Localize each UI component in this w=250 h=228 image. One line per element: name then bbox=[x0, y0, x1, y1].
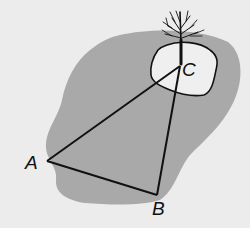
vertex-label-a: A bbox=[25, 153, 38, 172]
vertex-label-c: C bbox=[182, 60, 196, 79]
vertex-label-b: B bbox=[152, 199, 165, 218]
diagram: A B C bbox=[0, 0, 250, 228]
diagram-canvas bbox=[0, 0, 250, 228]
